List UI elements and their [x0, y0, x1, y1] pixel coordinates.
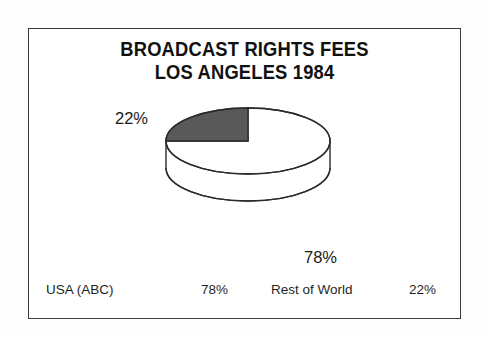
pie-label-rest-of-world: 22% [115, 109, 148, 128]
legend-item-value-rest-of-world: 22% [409, 282, 436, 297]
pie-chart [29, 89, 462, 274]
chart-frame: BROADCAST RIGHTS FEES LOS ANGELES 1984 2… [28, 28, 461, 319]
chart-legend: USA (ABC) 78% Rest of World 22% [29, 282, 462, 302]
chart-title-line-2: LOS ANGELES 1984 [42, 61, 447, 84]
chart-title-line-1: BROADCAST RIGHTS FEES [42, 38, 447, 61]
pie-svg [29, 89, 462, 274]
legend-item-name-rest-of-world: Rest of World [271, 282, 353, 297]
legend-item-value-usa: 78% [201, 282, 228, 297]
pie-label-usa: 78% [304, 248, 337, 267]
legend-item-name-usa: USA (ABC) [46, 282, 114, 297]
chart-title: BROADCAST RIGHTS FEES LOS ANGELES 1984 [42, 38, 447, 84]
chart-figure: BROADCAST RIGHTS FEES LOS ANGELES 1984 2… [0, 0, 488, 337]
